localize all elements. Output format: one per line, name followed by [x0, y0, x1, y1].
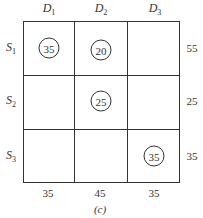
- supply-s1: 55: [187, 42, 198, 54]
- allocation-s1-d2: 20: [91, 40, 112, 61]
- allocation-s3-d3: 35: [144, 146, 165, 167]
- column-header-d1: D1: [43, 1, 56, 17]
- supply-s2: 25: [187, 95, 198, 107]
- row-header-s3: S3: [6, 148, 16, 164]
- column-header-d2: D2: [95, 1, 108, 17]
- grid-divider: [127, 22, 128, 182]
- grid-divider: [24, 129, 179, 130]
- row-header-s2: S2: [6, 93, 16, 109]
- allocation-s2-d2: 25: [91, 91, 112, 112]
- allocation-s1-d1: 35: [39, 38, 60, 59]
- grid-divider: [24, 75, 179, 76]
- demand-d2: 45: [95, 187, 106, 199]
- supply-s3: 35: [187, 150, 198, 162]
- figure-caption: (c): [94, 203, 106, 215]
- demand-d3: 35: [149, 187, 160, 199]
- demand-d1: 35: [43, 187, 54, 199]
- column-header-d3: D3: [149, 1, 162, 17]
- grid-divider: [74, 22, 75, 182]
- row-header-s1: S1: [6, 40, 16, 56]
